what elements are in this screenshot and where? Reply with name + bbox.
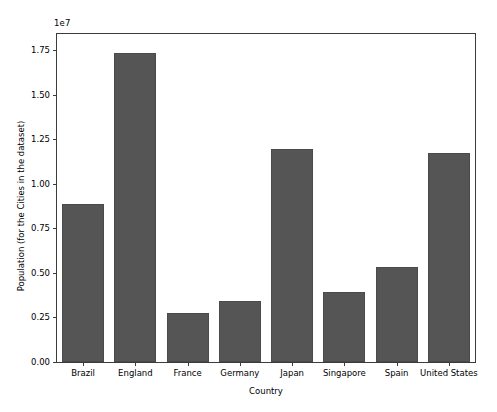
- x-tick-label: France: [173, 368, 201, 378]
- x-tick-mark: [83, 362, 84, 366]
- bar: [376, 267, 418, 362]
- y-tick-mark: [53, 50, 57, 51]
- x-tick-label: Singapore: [323, 368, 366, 378]
- y-tick-label: 0.50: [31, 268, 50, 278]
- x-tick-mark: [135, 362, 136, 366]
- y-tick-label: 1.25: [31, 134, 50, 144]
- bar-chart-figure: Population (for the Cities in the datase…: [0, 0, 497, 412]
- y-tick-mark: [53, 228, 57, 229]
- x-tick-label: Germany: [220, 368, 259, 378]
- plot-area: 0.000.250.500.751.001.251.501.75 BrazilE…: [56, 33, 476, 363]
- x-tick-mark: [188, 362, 189, 366]
- bar: [167, 313, 209, 362]
- x-tick-mark: [449, 362, 450, 366]
- bar: [114, 53, 156, 362]
- bar: [219, 301, 261, 363]
- y-tick-mark: [53, 317, 57, 318]
- x-tick-label: United States: [420, 368, 478, 378]
- y-axis-label: Population (for the Cities in the datase…: [14, 0, 28, 412]
- plot-inner: 0.000.250.500.751.001.251.501.75 BrazilE…: [57, 34, 475, 362]
- x-tick-mark: [344, 362, 345, 366]
- y-tick-label: 0.25: [31, 312, 50, 322]
- x-tick-label: England: [118, 368, 153, 378]
- x-axis-label: Country: [56, 386, 476, 396]
- bar: [62, 204, 104, 362]
- y-tick-label: 1.50: [31, 90, 50, 100]
- y-axis-exponent-label: 1e7: [54, 18, 71, 28]
- y-tick-mark: [53, 273, 57, 274]
- y-tick-mark: [53, 184, 57, 185]
- y-tick-mark: [53, 139, 57, 140]
- y-tick-label: 0.75: [31, 223, 50, 233]
- y-tick-label: 1.75: [31, 45, 50, 55]
- x-tick-mark: [292, 362, 293, 366]
- bar: [323, 292, 365, 362]
- bar: [271, 149, 313, 362]
- x-tick-label: Spain: [385, 368, 409, 378]
- y-tick-mark: [53, 362, 57, 363]
- y-tick-label: 1.00: [31, 179, 50, 189]
- y-tick-label: 0.00: [31, 357, 50, 367]
- x-tick-label: Japan: [280, 368, 304, 378]
- y-tick-mark: [53, 95, 57, 96]
- x-tick-mark: [240, 362, 241, 366]
- bar: [428, 153, 470, 362]
- x-tick-mark: [397, 362, 398, 366]
- x-tick-label: Brazil: [71, 368, 95, 378]
